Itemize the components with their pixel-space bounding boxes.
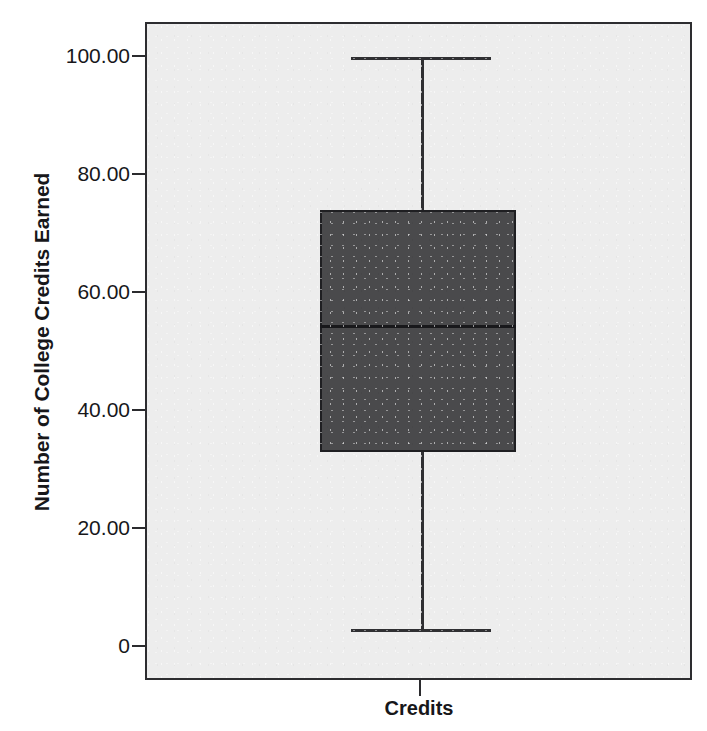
median-line	[320, 325, 516, 328]
y-axis-tick-mark	[132, 645, 145, 647]
y-axis-tick-mark	[132, 291, 145, 293]
upper-whisker-line	[421, 57, 424, 210]
y-axis-tick-text: 0	[48, 634, 130, 658]
lower-whisker-line	[421, 452, 424, 629]
y-axis-tick-text: 100.00	[48, 44, 130, 68]
y-axis-tick-mark	[132, 55, 145, 57]
boxplot-glyph[interactable]	[147, 24, 690, 678]
y-axis-tick-text: 80.00	[48, 162, 130, 186]
y-axis-tick-text: 60.00	[48, 280, 130, 304]
y-axis-tick-mark	[132, 527, 145, 529]
x-axis-tick-mark	[419, 680, 421, 696]
lower-whisker-cap	[351, 629, 491, 632]
y-axis-tick-mark	[132, 173, 145, 175]
y-axis-title: Number of College Credits Earned	[30, 32, 54, 652]
upper-whisker-cap	[351, 57, 491, 60]
plot-area	[145, 22, 692, 680]
boxplot-figure: Number of College Credits Earned 100.008…	[0, 0, 707, 731]
y-axis-tick-mark	[132, 409, 145, 411]
y-axis-tick-text: 20.00	[48, 516, 130, 540]
y-axis-tick-text: 40.00	[48, 398, 130, 422]
x-axis-tick-label-credits: Credits	[319, 697, 519, 720]
interquartile-box[interactable]	[320, 210, 516, 452]
